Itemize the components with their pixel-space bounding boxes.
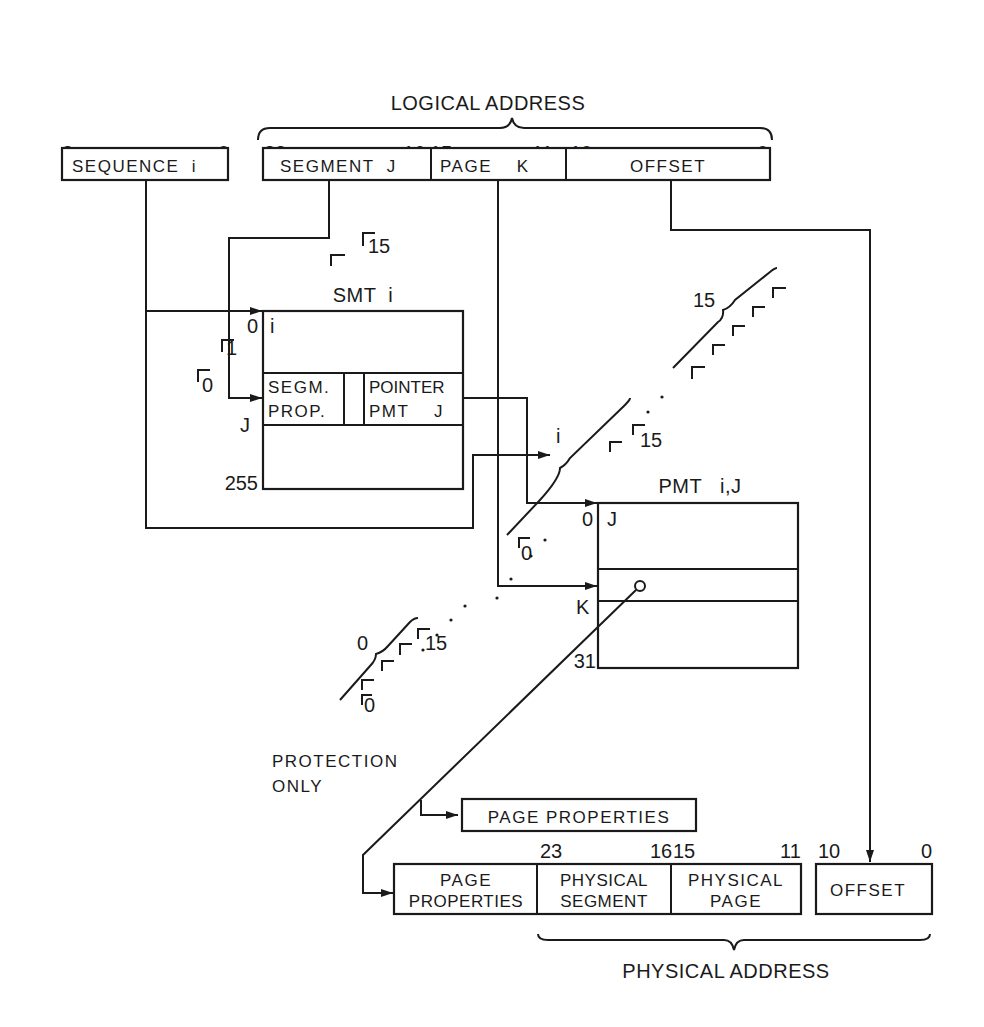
pmt-row0-index: 0 xyxy=(582,508,593,530)
pmt-last-index: 31 xyxy=(574,650,596,672)
physical-address: 23 16 15 11 10 0 PAGE PROPERTIES PHYSICA… xyxy=(394,840,932,982)
pmt-box xyxy=(598,503,798,668)
smt-segm-prop-line1: SEGM. xyxy=(268,378,330,397)
smt-stack-mark-0: 0 xyxy=(202,374,213,396)
phys-offset-bit-low: 0 xyxy=(921,840,932,862)
protection-only-line2: ONLY xyxy=(272,777,323,796)
pmt-group-top-label: 15 xyxy=(693,289,715,311)
physical-address-brace xyxy=(538,934,930,950)
smt-stack-mark-1: 1 xyxy=(226,337,237,359)
pmt-group-bottom-label: 0 xyxy=(357,632,368,654)
phys-page-line1: PHYSICAL xyxy=(688,871,784,890)
physical-address-title: PHYSICAL ADDRESS xyxy=(622,960,829,982)
pmt-title: PMT i,J xyxy=(658,475,741,497)
phys-page-properties-line1: PAGE xyxy=(440,871,492,890)
pmt-row0-content: J xyxy=(607,508,617,530)
logical-address: LOGICAL ADDRESS 3 0 SEQUENCE i 23 16 15 … xyxy=(62,92,772,180)
smt-table: SMT i 0 i J 255 SEGM. PROP. POINTER PMT … xyxy=(198,233,463,494)
pmt-rowK-index: K xyxy=(576,596,590,618)
phys-segment-bit-high: 23 xyxy=(540,840,562,862)
smt-segm-prop-line2: PROP. xyxy=(268,402,326,421)
logical-address-brace xyxy=(258,118,772,140)
offset-label: OFFSET xyxy=(630,157,706,176)
page-label: PAGE K xyxy=(440,157,530,176)
smt-pointer-line1: POINTER xyxy=(369,378,445,397)
segment-label: SEGMENT J xyxy=(280,157,397,176)
smt-stack-mark-15: 15 xyxy=(368,235,390,257)
phys-page-properties-line2: PROPERTIES xyxy=(409,892,523,911)
phys-page-bit-high: 15 xyxy=(673,840,695,862)
pmt-group-i-mark-15: 15 xyxy=(640,429,662,451)
pmt-table: PMT i,J 0 J K 31 xyxy=(574,475,798,672)
smt-pointer-line2: PMT J xyxy=(369,402,444,421)
pmt-group-bottom-mark-0: 0 xyxy=(364,694,375,716)
pmt-group-i-mark-0: 0 xyxy=(521,542,532,564)
smt-row0-content: i xyxy=(270,315,274,337)
phys-offset-bit-high: 10 xyxy=(818,840,840,862)
smt-title: SMT i xyxy=(333,284,393,306)
phys-page-bit-low: 11 xyxy=(780,840,801,862)
sequence-label: SEQUENCE i xyxy=(72,157,197,176)
protection-only-line1: PROTECTION xyxy=(272,752,398,771)
pmt-group-i-label: i xyxy=(556,425,560,447)
phys-offset-label: OFFSET xyxy=(830,881,906,900)
smt-row0-index: 0 xyxy=(247,315,258,337)
pmt-group-bottom-mark-15: 15 xyxy=(425,632,447,654)
page-properties-label: PAGE PROPERTIES xyxy=(488,808,670,827)
phys-segment-bit-low: 16 xyxy=(650,840,672,862)
smt-stack-corner xyxy=(331,255,345,266)
phys-segment-line1: PHYSICAL xyxy=(560,871,648,890)
entry-routing xyxy=(363,590,636,893)
pmt-entry-pointer-origin xyxy=(635,581,645,591)
smt-rowJ-index: J xyxy=(240,414,250,436)
smt-last-index: 255 xyxy=(225,472,258,494)
phys-page-line2: PAGE xyxy=(710,892,762,911)
address-translation-diagram: LOGICAL ADDRESS 3 0 SEQUENCE i 23 16 15 … xyxy=(0,0,984,1027)
logical-address-title: LOGICAL ADDRESS xyxy=(391,92,586,114)
phys-segment-line2: SEGMENT xyxy=(560,892,648,911)
